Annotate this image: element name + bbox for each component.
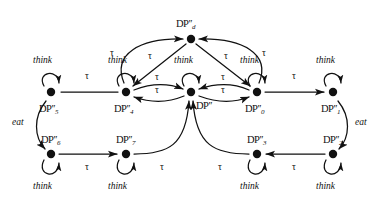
- self-loop-label-n0: think: [240, 56, 259, 66]
- state-label-n5: DP′′5: [39, 104, 59, 116]
- self-loop-n6: [42, 160, 59, 174]
- edge-c-to-4: [134, 96, 184, 101]
- edge-label-c-to-4: τ: [155, 86, 159, 96]
- state-label-n4: DP′′4: [114, 104, 134, 116]
- edge-label-0-to-c: τ: [221, 73, 225, 83]
- self-loop-label-n3: think: [240, 182, 259, 192]
- state-label-n7: DP′′7: [116, 135, 136, 147]
- edge-label-d-to-4: τ: [148, 52, 152, 62]
- edge-label-2-to-3: τ: [292, 163, 296, 173]
- node-n3[interactable]: [253, 150, 261, 158]
- edge-label-0-to-d: τ: [262, 49, 266, 59]
- node-n4[interactable]: [122, 88, 130, 96]
- state-label-d: DP′′d: [176, 19, 196, 31]
- node-n6[interactable]: [47, 150, 55, 158]
- node-n2[interactable]: [329, 150, 337, 158]
- node-n1[interactable]: [329, 88, 337, 96]
- edge-label-1-to-2: eat: [355, 118, 367, 128]
- edge-label-c-to-0: τ: [221, 86, 225, 96]
- nodes-layer: [47, 35, 337, 158]
- self-loop-nc: [182, 73, 199, 86]
- edge-label-4-to-d: τ: [110, 49, 114, 59]
- self-loop-n0: [248, 73, 265, 86]
- node-n5[interactable]: [47, 88, 55, 96]
- node-d[interactable]: [187, 35, 195, 43]
- self-loop-n5: [42, 73, 59, 86]
- self-loop-n3: [248, 160, 265, 174]
- edge-label-5-to-6: eat: [12, 118, 24, 128]
- edge-label-d-to-0: τ: [224, 52, 228, 62]
- state-transition-diagram: DP′′d DP′′5 DP′′4 DP′′ DP′′0 DP′′1 DP′′6…: [0, 0, 383, 204]
- state-label-nc: DP′′: [196, 101, 212, 113]
- self-loop-label-n5: think: [33, 56, 52, 66]
- edge-label-4-to-c: τ: [155, 73, 159, 83]
- state-label-n3: DP′′3: [247, 135, 267, 147]
- state-label-n6: DP′′6: [41, 135, 61, 147]
- self-loop-label-nc: think: [174, 56, 193, 66]
- edge-label-4-to-5: τ: [85, 72, 89, 82]
- self-loop-n7: [117, 160, 134, 174]
- self-loop-label-n2: think: [316, 182, 335, 192]
- self-loop-label-n1: think: [316, 56, 335, 66]
- self-loop-n1: [324, 73, 341, 86]
- edge-label-7-to-c: τ: [160, 163, 164, 173]
- node-n0[interactable]: [253, 88, 261, 96]
- self-loop-n4: [117, 73, 134, 86]
- node-n7[interactable]: [122, 150, 130, 158]
- state-label-n2: DP′′2: [323, 135, 343, 147]
- edge-label-6-to-7: τ: [85, 163, 89, 173]
- edge-7-to-c: [134, 101, 189, 154]
- edge-label-0-to-1: τ: [292, 72, 296, 82]
- state-label-n0: DP′′0: [245, 104, 265, 116]
- node-nc[interactable]: [187, 88, 195, 96]
- self-loop-n2: [324, 160, 341, 174]
- self-loop-label-n6: think: [33, 182, 52, 192]
- state-label-n1: DP′′1: [321, 104, 341, 116]
- edge-label-3-to-c: τ: [218, 163, 222, 173]
- self-loop-label-n7: think: [108, 182, 127, 192]
